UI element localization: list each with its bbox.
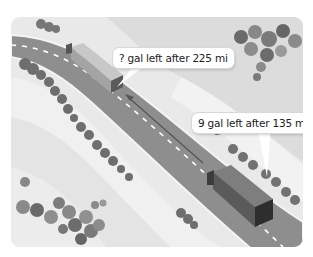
- illustration-frame: ? gal left after 225 mi 9 gal left after…: [11, 17, 303, 247]
- callout-current-text: 9 gal left after 135 mi: [198, 117, 303, 129]
- callout-future-text: ? gal left after 225 mi: [119, 52, 228, 64]
- trees-top-left: [36, 19, 60, 33]
- callout-future-fuel: ? gal left after 225 mi: [113, 48, 234, 68]
- callout-current-fuel: 9 gal left after 135 mi: [192, 113, 303, 133]
